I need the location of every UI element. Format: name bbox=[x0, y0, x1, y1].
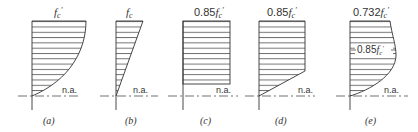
caption: (c) bbox=[200, 115, 212, 127]
na-label: n.a. bbox=[298, 85, 313, 95]
panel-d: n.a. 0.85fc′ (d) bbox=[245, 6, 315, 127]
panel-e: n.a. 0.732fc′ 0.85fc′ (e) bbox=[336, 6, 408, 127]
top-label: fc′ bbox=[54, 6, 63, 20]
na-label: n.a. bbox=[384, 85, 399, 95]
panel-a: n.a. fc′ (a) bbox=[18, 6, 86, 127]
stress-distribution-diagram: n.a. fc′ (a) n.a. fc (b) n.a. 0.85fc′ (c… bbox=[0, 0, 418, 132]
stress-block bbox=[183, 21, 230, 84]
caption: (b) bbox=[125, 115, 137, 127]
panel-c: n.a. 0.85fc′ (c) bbox=[168, 6, 238, 127]
top-label: 0.85fc′ bbox=[194, 6, 224, 20]
na-label: n.a. bbox=[133, 85, 148, 95]
caption: (d) bbox=[275, 115, 287, 127]
top-label: 0.85fc′ bbox=[267, 6, 297, 20]
top-label: 0.732fc′ bbox=[353, 6, 389, 20]
top-label: fc bbox=[126, 6, 133, 20]
na-label: n.a. bbox=[62, 85, 77, 95]
na-label: n.a. bbox=[216, 85, 231, 95]
caption: (a) bbox=[43, 115, 55, 127]
panel-b: n.a. fc (b) bbox=[100, 6, 158, 127]
caption: (e) bbox=[365, 115, 377, 127]
